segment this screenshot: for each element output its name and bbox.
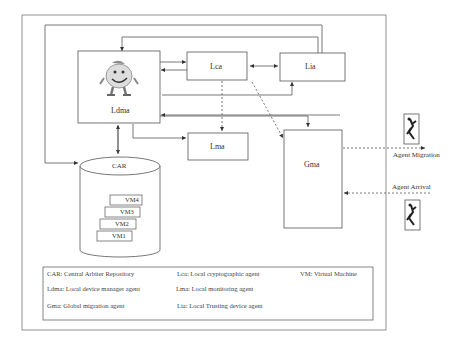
agent-arrival-label: Agent Arrival [392, 183, 431, 191]
legend-car: CAR: Central Arbiter Repository [47, 270, 134, 277]
vm1-label: VM1 [112, 232, 126, 239]
legend-ldma: Ldma: Local device manager agent [47, 285, 140, 292]
car-label: CAR [112, 162, 126, 170]
legend-lia: Lia: Local Trusting device agent [177, 302, 263, 309]
legend-gma: Gma: Global migration agent [47, 302, 124, 309]
agent-arrival-icon [405, 200, 420, 230]
gma-box [284, 130, 342, 228]
legend-lca: Lca: Local cryptographic agent [177, 270, 260, 277]
legend-vm: VM: Virtual Machine [300, 270, 357, 277]
lma-label: Lma [210, 142, 225, 151]
cartoon-agent-icon [100, 61, 138, 95]
lia-label: Lia [305, 62, 316, 71]
vm3-label: VM3 [120, 208, 134, 215]
agent-migration-icon [404, 114, 419, 144]
lca-label: Lca [210, 62, 222, 71]
agent-migration-label: Agent Migration [393, 151, 440, 159]
system-boundary [22, 15, 386, 330]
ldma-label: Ldma [111, 106, 130, 115]
gma-label: Gma [304, 160, 320, 169]
legend-lma: Lma: Local monitoring agent [176, 285, 253, 292]
vm4-label: VM4 [125, 196, 139, 203]
vm2-label: VM2 [115, 220, 129, 227]
